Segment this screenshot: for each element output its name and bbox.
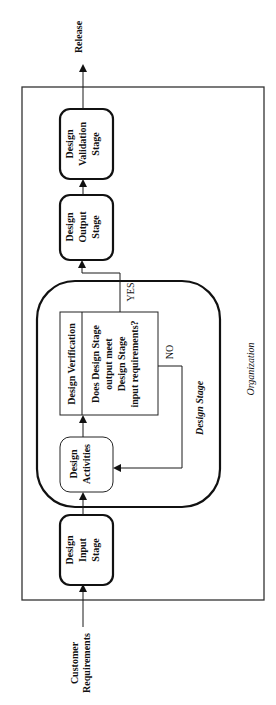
design-input-stage-line-2: Input xyxy=(77,537,88,562)
verification-question-line-2: output meet xyxy=(103,338,114,390)
design-control-diagram: Organization Design Stage Customer Requi… xyxy=(0,0,276,705)
verification-question-line-3: Design Stage xyxy=(116,336,127,391)
design-input-stage-line-1: Design xyxy=(64,535,75,564)
design-output-stage-line-1: Design xyxy=(64,212,75,241)
design-stage-label: Design Stage xyxy=(194,380,205,436)
design-output-stage-line-3: Stage xyxy=(90,215,101,239)
verification-question-line-1: Does Design Stage xyxy=(90,325,101,403)
customer-requirements-label-2: Requirements xyxy=(81,633,92,693)
verification-title: Design Verification xyxy=(66,323,77,405)
customer-requirements-label: Customer xyxy=(69,641,80,684)
design-activities-line-1: Design xyxy=(68,449,79,478)
yes-label: YES xyxy=(125,283,136,302)
design-validation-stage-line-2: Validation xyxy=(77,122,88,167)
no-label: NO xyxy=(164,345,175,359)
design-validation-stage-line-3: Stage xyxy=(90,132,101,156)
design-activities-line-2: Activities xyxy=(81,444,92,484)
design-validation-stage-line-1: Design xyxy=(64,129,75,158)
release-label: Release xyxy=(73,20,84,53)
design-input-stage-line-3: Stage xyxy=(90,538,101,562)
design-output-stage-line-2: Output xyxy=(77,211,88,243)
yes-arrow xyxy=(82,264,120,312)
verification-question-line-4: input requirements? xyxy=(129,320,140,407)
organization-label: Organization xyxy=(245,343,256,396)
